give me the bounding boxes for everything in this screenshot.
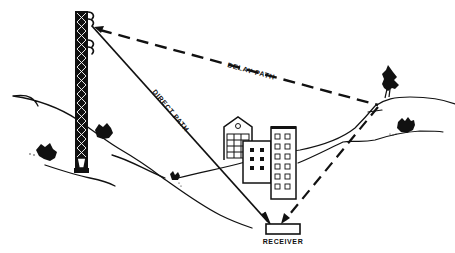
delay-path-label: DELAY PATH: [227, 61, 276, 80]
antenna-icon: [88, 12, 93, 54]
delay-path-arrowhead: [281, 213, 290, 224]
tower-base: [74, 168, 89, 173]
direct-path-label: DIRECT PATH: [151, 88, 190, 133]
mid-ridge: [112, 155, 165, 178]
delay-path-reflected: [285, 107, 378, 220]
valley-road-upper: [178, 97, 455, 178]
buildings: [224, 117, 296, 199]
receiver: RECEIVER: [263, 224, 304, 245]
building-office-small: [243, 141, 271, 183]
bush-icon: [36, 143, 57, 161]
building-office-tall: [271, 126, 296, 199]
bush-icon: [95, 123, 113, 139]
tree-icon: [382, 65, 399, 98]
bush-icon: [397, 117, 415, 133]
tower-leg: [77, 158, 86, 168]
transmitter-tower: [74, 11, 93, 173]
valley-road-lower: [298, 131, 443, 163]
receiver-box: [266, 224, 300, 234]
receiver-label: RECEIVER: [263, 238, 304, 245]
bush-icon: [170, 171, 180, 180]
left-hill-outline: [13, 95, 252, 228]
multipath-diagram: DIRECT PATH DELAY PATH: [0, 0, 455, 253]
